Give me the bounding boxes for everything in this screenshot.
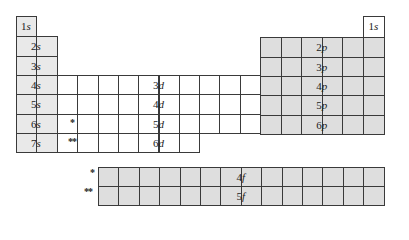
f-block-cell	[98, 186, 119, 206]
f-block-label-5f: 5f	[237, 190, 246, 201]
p-block-cell	[260, 37, 282, 58]
f-block-cell	[98, 167, 119, 187]
f-block-cell	[118, 186, 139, 206]
lanthanide-marker: *	[70, 116, 74, 127]
d-block-label-6d: 6d	[153, 137, 164, 148]
actinide-marker: **	[68, 135, 76, 146]
f-block-cell	[343, 186, 364, 206]
p-block-label-4p: 4p	[316, 80, 327, 91]
p-block-label-3p: 3p	[316, 61, 327, 72]
d-block-cell	[179, 133, 200, 153]
d-block-cell	[118, 133, 139, 153]
f-block-cell	[282, 186, 303, 206]
s-block-label-1s: 1s	[21, 21, 31, 32]
d-block-cell	[179, 94, 200, 115]
d-block-cell	[118, 75, 139, 95]
d-block-cell	[240, 94, 261, 115]
d-block-cell	[57, 75, 78, 95]
right-1s-label: 1s	[368, 21, 378, 32]
s-block-label-4s: 4s	[31, 79, 41, 90]
d-block-cell	[77, 75, 98, 95]
p-block-cell	[342, 76, 364, 96]
p-block-cell	[281, 76, 303, 96]
d-block-cell	[199, 94, 220, 115]
f-block-cell	[363, 167, 384, 187]
d-block-cell	[179, 75, 200, 95]
p-block-cell	[281, 37, 303, 58]
f-block-cell	[200, 186, 221, 206]
d-block-cell	[199, 114, 220, 134]
lanthanide-row-marker: *	[90, 167, 94, 178]
d-block-cell	[77, 133, 98, 153]
d-block-cell	[98, 114, 119, 134]
p-block-cell	[342, 37, 364, 58]
d-block-cell	[219, 94, 240, 115]
f-block-cell	[261, 186, 282, 206]
p-block-cell	[363, 76, 385, 96]
p-block-cell	[260, 95, 282, 116]
d-block-cell	[77, 114, 98, 134]
d-block-cell	[98, 75, 119, 95]
d-block-label-4d: 4d	[153, 99, 164, 110]
d-block-cell	[199, 75, 220, 95]
f-block-cell	[322, 167, 343, 187]
actinide-row-marker: **	[84, 186, 92, 197]
s-block-label-6s: 6s	[31, 118, 41, 129]
f-block-cell	[159, 167, 180, 187]
p-block-label-6p: 6p	[316, 119, 327, 130]
p-block-cell	[342, 57, 364, 77]
p-block-cell	[342, 95, 364, 116]
p-block-cell	[363, 37, 385, 58]
f-block-label-4f: 4f	[237, 171, 246, 182]
p-block-cell	[363, 95, 385, 116]
p-block-cell	[260, 76, 282, 96]
d-block-cell	[240, 114, 261, 134]
d-block-cell	[57, 94, 78, 115]
d-block-cell	[118, 114, 139, 134]
p-block-cell	[281, 95, 303, 116]
s-block-label-3s: 3s	[31, 60, 41, 71]
s-block-label-2s: 2s	[31, 41, 41, 52]
f-block-cell	[118, 167, 139, 187]
f-block-cell	[180, 186, 201, 206]
d-block-label-3d: 3d	[153, 79, 164, 90]
p-block-cell	[363, 57, 385, 77]
f-block-cell	[302, 167, 323, 187]
d-block-cell	[219, 75, 240, 95]
d-block-cell	[98, 133, 119, 153]
f-block-cell	[139, 186, 160, 206]
d-block-cell	[98, 94, 119, 115]
d-block-cell	[57, 114, 78, 134]
d-block-label-5d: 5d	[153, 118, 164, 129]
p-block-cell	[363, 115, 385, 135]
f-block-cell	[282, 167, 303, 187]
f-block-cell	[200, 167, 221, 187]
f-block-cell	[322, 186, 343, 206]
p-block-label-2p: 2p	[316, 42, 327, 53]
p-block-cell	[260, 57, 282, 77]
f-block-cell	[343, 167, 364, 187]
s-block-label-5s: 5s	[31, 99, 41, 110]
d-block-cell	[219, 114, 240, 134]
d-block-cell	[77, 94, 98, 115]
s-block-label-7s: 7s	[31, 137, 41, 148]
d-block-cell	[118, 94, 139, 115]
p-block-cell	[281, 57, 303, 77]
f-block-cell	[302, 186, 323, 206]
f-block-cell	[139, 167, 160, 187]
d-block-cell	[240, 75, 261, 95]
f-block-cell	[363, 186, 384, 206]
f-block-cell	[261, 167, 282, 187]
f-block-cell	[159, 186, 180, 206]
p-block-cell	[281, 115, 303, 135]
f-block-cell	[180, 167, 201, 187]
p-block-cell	[260, 115, 282, 135]
p-block-label-5p: 5p	[316, 100, 327, 111]
d-block-cell	[179, 114, 200, 134]
p-block-cell	[342, 115, 364, 135]
